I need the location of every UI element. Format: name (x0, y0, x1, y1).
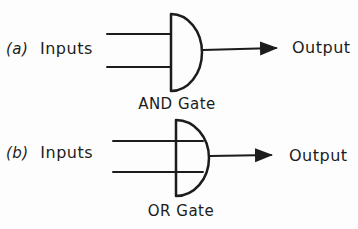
diagram-page: (a) Inputs Output AND Gate (b) Inputs Ou… (0, 0, 358, 229)
and-output-label: Output (292, 38, 351, 57)
and-output-line (203, 48, 276, 50)
or-gate-caption: OR Gate (148, 202, 214, 220)
or-output-line (210, 155, 271, 156)
and-gate-symbol (171, 14, 202, 91)
figure-or-gate: (b) Inputs Output OR Gate (6, 120, 348, 220)
figure-and-gate: (a) Inputs Output AND Gate (6, 14, 351, 113)
or-gate-symbol (176, 120, 209, 196)
figure-b-index: (b) (6, 144, 29, 162)
figure-b-inputs-label: Inputs (40, 143, 93, 162)
figure-b-label: (b) Inputs (6, 143, 93, 162)
and-gate-caption: AND Gate (138, 95, 216, 113)
figure-a-inputs-label: Inputs (40, 39, 93, 58)
or-output-label: Output (289, 146, 348, 165)
figure-a-index: (a) (6, 40, 28, 58)
diagram-canvas: (a) Inputs Output AND Gate (b) Inputs Ou… (0, 0, 358, 229)
figure-a-label: (a) Inputs (6, 39, 93, 58)
